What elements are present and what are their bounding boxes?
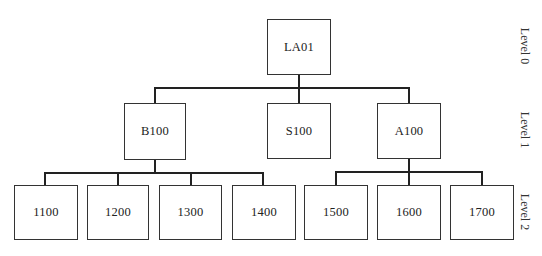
connector-1400-up <box>262 172 264 185</box>
connector-b100-down <box>154 159 156 173</box>
node-b100: B100 <box>124 103 186 160</box>
node-s100: S100 <box>267 103 331 159</box>
node-label: 1300 <box>178 205 204 220</box>
node-label: 1600 <box>396 205 422 220</box>
node-label: 1700 <box>469 205 495 220</box>
connector-1300-up <box>190 172 192 185</box>
connector-b100-up <box>154 87 156 103</box>
level-0-label: Level 0 <box>517 28 532 64</box>
node-label: 1400 <box>251 205 277 220</box>
node-label: 1100 <box>33 205 58 220</box>
org-tree-diagram: LA01 B100 S100 A100 1100 1200 1300 1400 … <box>0 0 542 256</box>
node-label: 1500 <box>323 205 349 220</box>
node-label: A100 <box>395 124 424 139</box>
node-1600: 1600 <box>377 185 441 240</box>
node-1200: 1200 <box>87 185 149 240</box>
node-la01: LA01 <box>267 19 331 75</box>
node-1100: 1100 <box>14 185 78 240</box>
connector-a100-up <box>408 87 410 103</box>
node-1700: 1700 <box>450 185 514 240</box>
connector-1200-up <box>117 172 119 185</box>
node-1400: 1400 <box>232 185 296 240</box>
connector-1100-up <box>44 172 46 185</box>
level-1-label: Level 1 <box>517 112 532 148</box>
connector-root-down <box>298 74 300 88</box>
node-1500: 1500 <box>304 185 368 240</box>
connector-level1-bus <box>154 87 410 89</box>
node-label: B100 <box>141 124 169 139</box>
node-label: S100 <box>286 124 313 139</box>
connector-1700-up <box>481 171 483 185</box>
node-1300: 1300 <box>159 185 222 240</box>
connector-s100-up <box>298 87 300 103</box>
node-a100: A100 <box>377 103 441 159</box>
level-2-label: Level 2 <box>517 194 532 230</box>
node-label: LA01 <box>284 40 314 55</box>
connector-b100-bus <box>44 172 263 174</box>
connector-1600-up <box>408 171 410 185</box>
connector-1500-up <box>335 171 337 185</box>
node-label: 1200 <box>105 205 131 220</box>
